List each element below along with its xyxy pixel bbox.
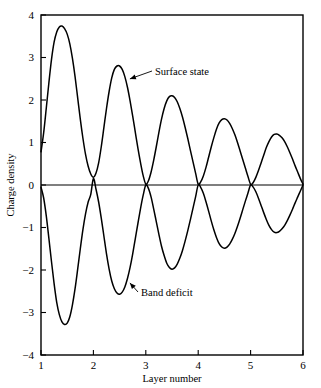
charge-density-line-chart: −4−3−2−101234 123456 Surface state Band … <box>0 0 321 388</box>
y-tick-label: 4 <box>29 9 35 21</box>
curve-band-deficit <box>41 179 303 325</box>
y-tick-label: −1 <box>22 221 34 233</box>
annotation-band-deficit: Band deficit <box>141 287 193 298</box>
y-tick-label: 2 <box>29 94 35 106</box>
x-tick-label: 3 <box>143 359 149 371</box>
annotation-surface-state: Surface state <box>155 66 209 77</box>
x-tick-label: 6 <box>300 359 306 371</box>
y-tick-label: 0 <box>29 179 35 191</box>
chart-figure: −4−3−2−101234 123456 Surface state Band … <box>0 0 321 388</box>
x-tick-label: 5 <box>248 359 254 371</box>
x-axis-title: Layer number <box>142 373 202 384</box>
y-axis-ticks: −4−3−2−101234 <box>22 9 46 361</box>
annotation-arrowhead <box>130 74 137 79</box>
x-tick-label: 1 <box>38 359 44 371</box>
y-tick-label: −4 <box>22 349 34 361</box>
curve-surface-state <box>41 26 303 185</box>
y-tick-label: 3 <box>29 51 35 63</box>
y-axis-title: Charge density <box>5 153 16 217</box>
y-tick-label: 1 <box>29 136 35 148</box>
x-axis-ticks: 123456 <box>38 350 306 371</box>
y-tick-label: −3 <box>22 306 34 318</box>
y-tick-label: −2 <box>22 264 34 276</box>
x-tick-label: 4 <box>195 359 201 371</box>
x-tick-label: 2 <box>91 359 97 371</box>
